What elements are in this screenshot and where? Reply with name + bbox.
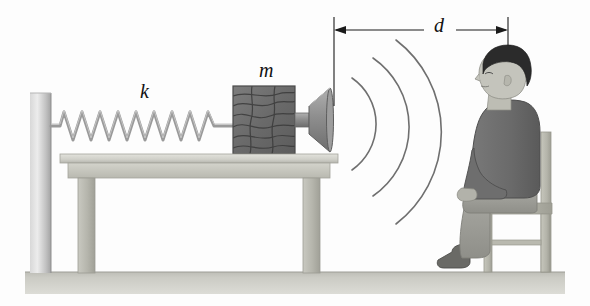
sound-wave-arc-3 [396, 40, 441, 224]
wall-support-post [30, 93, 51, 273]
seated-person [437, 45, 540, 268]
arrowhead-left-icon [334, 26, 346, 34]
wooden-block-mass [233, 86, 296, 154]
sound-wave-arc-2 [373, 58, 409, 196]
mass-label: m [259, 59, 273, 82]
chair-stretcher [492, 240, 541, 245]
diagram-canvas [0, 0, 590, 306]
sound-wave-arcs [352, 40, 441, 224]
spring-constant-label: k [140, 80, 149, 103]
ear [504, 75, 511, 85]
physics-diagram-figure: k m d [0, 0, 590, 306]
loudspeaker-cone [295, 88, 334, 152]
floor-ground [25, 272, 565, 294]
table-leg-left [78, 178, 95, 273]
sound-wave-arc-1 [352, 78, 376, 170]
table-leg-right [303, 178, 320, 273]
chair-leg-back [541, 214, 550, 272]
table [60, 154, 338, 273]
hand [457, 188, 477, 201]
arrowhead-right-icon [496, 26, 508, 34]
distance-label: d [434, 14, 444, 37]
